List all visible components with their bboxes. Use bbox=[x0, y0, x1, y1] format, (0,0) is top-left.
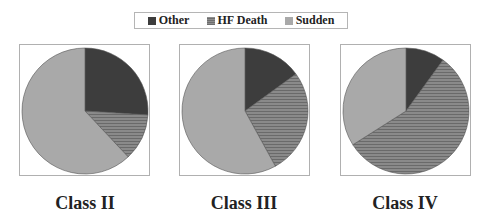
pie-chart-class-3 bbox=[179, 44, 310, 176]
legend-swatch-sudden bbox=[285, 17, 293, 25]
label-class-2: Class II bbox=[15, 193, 155, 214]
pie-slice-other bbox=[85, 48, 148, 115]
label-class-3: Class III bbox=[174, 193, 314, 214]
legend-item-hf-death: HF Death bbox=[207, 13, 268, 28]
pie-chart-class-2 bbox=[19, 44, 150, 176]
legend-swatch-hf-death bbox=[207, 17, 215, 25]
legend-label-other: Other bbox=[159, 13, 190, 28]
pie-svg-class-2 bbox=[20, 45, 151, 177]
pie-chart-class-4 bbox=[340, 44, 471, 176]
legend-label-hf-death: HF Death bbox=[218, 13, 268, 28]
legend-swatch-other bbox=[148, 17, 156, 25]
legend-item-other: Other bbox=[148, 13, 190, 28]
legend-item-sudden: Sudden bbox=[285, 13, 335, 28]
pie-svg-class-4 bbox=[341, 45, 472, 177]
legend-label-sudden: Sudden bbox=[296, 13, 335, 28]
pie-svg-class-3 bbox=[180, 45, 311, 177]
chart-legend: Other HF Death Sudden bbox=[134, 12, 348, 29]
label-class-4: Class IV bbox=[335, 193, 475, 214]
